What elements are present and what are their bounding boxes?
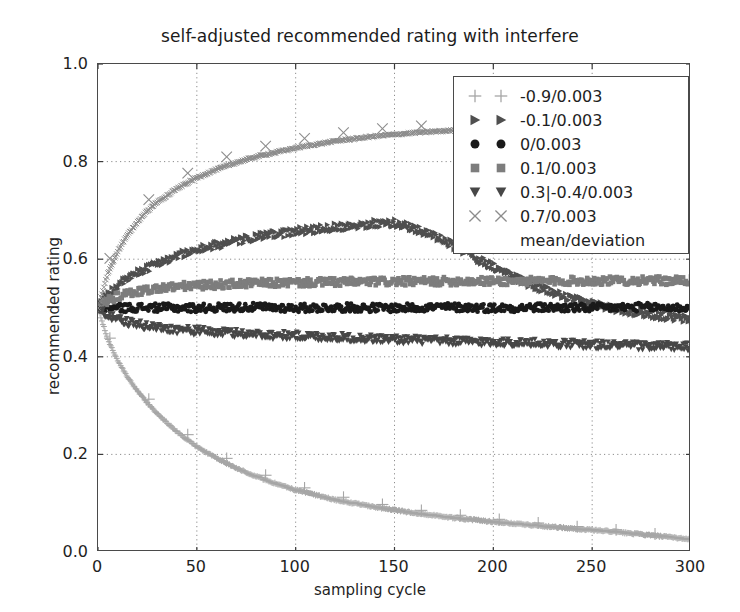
legend-marker-left: [462, 206, 488, 226]
legend-item[interactable]: -0.9/0.003: [454, 84, 688, 108]
y-tick-label: 0.2: [42, 444, 88, 463]
legend-marker-right: [488, 110, 514, 130]
triangle-right-marker-icon: [493, 112, 509, 128]
x-tick-label: 250: [561, 557, 621, 576]
chart-figure: self-adjusted recommended rating with in…: [0, 0, 740, 612]
legend-label: -0.9/0.003: [520, 87, 602, 106]
x-axis-tick-labels: 050100150200250300: [0, 557, 740, 581]
legend-note: mean/deviation: [454, 228, 688, 252]
legend-marker-right: [488, 206, 514, 226]
legend-marker-right: [488, 182, 514, 202]
legend-marker-left: [462, 158, 488, 178]
square-marker-icon: [493, 160, 509, 176]
legend-marker-left: [462, 86, 488, 106]
x-tick-label: 50: [166, 557, 226, 576]
triangle-down-marker-icon: [467, 184, 483, 200]
circle-marker-icon: [493, 136, 509, 152]
legend-label: 0.1/0.003: [520, 159, 597, 178]
x-tick-label: 150: [364, 557, 424, 576]
triangle-down-marker-icon: [493, 184, 509, 200]
legend-item[interactable]: 0/0.003: [454, 132, 688, 156]
legend-label: 0.7/0.003: [520, 207, 597, 226]
square-marker-icon: [467, 160, 483, 176]
legend-marker-right: [488, 134, 514, 154]
x-tick-label: 200: [462, 557, 522, 576]
x-marker-icon: [493, 208, 509, 224]
y-tick-label: 1.0: [42, 54, 88, 73]
legend-marker-right: [488, 86, 514, 106]
legend-marker-left: [462, 182, 488, 202]
legend-label: 0.3|-0.4/0.003: [520, 183, 633, 202]
plus-marker-icon: [467, 88, 483, 104]
legend-marker-left: [462, 134, 488, 154]
legend-item[interactable]: 0.7/0.003: [454, 204, 688, 228]
legend-marker-right: [488, 158, 514, 178]
legend: -0.9/0.003-0.1/0.0030/0.0030.1/0.0030.3|…: [453, 76, 689, 254]
circle-marker-icon: [467, 136, 483, 152]
legend-marker-left: [462, 110, 488, 130]
x-tick-label: 100: [265, 557, 325, 576]
x-tick-label: 300: [660, 557, 720, 576]
triangle-right-marker-icon: [467, 112, 483, 128]
x-tick-label: 0: [67, 557, 127, 576]
plus-marker-icon: [493, 88, 509, 104]
series-circle: [98, 301, 689, 315]
legend-item[interactable]: -0.1/0.003: [454, 108, 688, 132]
legend-item[interactable]: 0.3|-0.4/0.003: [454, 180, 688, 204]
legend-item[interactable]: 0.1/0.003: [454, 156, 688, 180]
legend-label: 0/0.003: [520, 135, 581, 154]
x-marker-icon: [467, 208, 483, 224]
y-tick-label: 0.8: [42, 152, 88, 171]
page-title: self-adjusted recommended rating with in…: [0, 26, 740, 46]
y-axis-label: recommended rating: [45, 186, 63, 446]
x-axis-label: sampling cycle: [0, 581, 740, 599]
legend-label: -0.1/0.003: [520, 111, 602, 130]
